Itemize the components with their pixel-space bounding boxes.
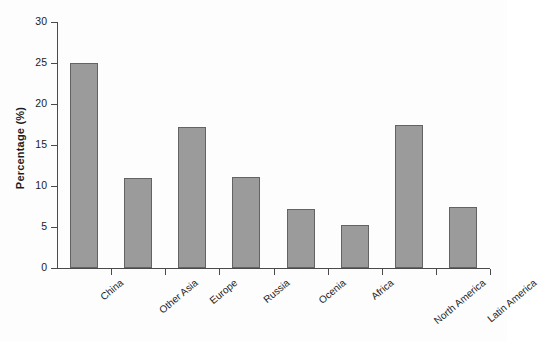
y-axis-title: Percentage (%) xyxy=(14,78,30,218)
x-axis-label: Latin America xyxy=(485,277,538,324)
y-tick: 10 xyxy=(51,186,57,187)
x-axis-label: Other Asia xyxy=(157,277,200,315)
x-tick xyxy=(490,269,491,275)
x-tick xyxy=(274,269,275,275)
x-axis-label-text: Russia xyxy=(262,277,292,305)
x-axis-label-text: Europe xyxy=(208,277,240,306)
bar xyxy=(70,63,98,268)
x-tick xyxy=(219,269,220,275)
x-axis-label: Ocenia xyxy=(316,277,347,306)
y-tick-label: 20 xyxy=(35,97,47,109)
x-axis-label: China xyxy=(98,277,125,302)
x-axis-label: Africa xyxy=(369,277,396,302)
x-axis-label-text: China xyxy=(98,277,125,302)
x-axis-label-text: Latin America xyxy=(485,277,538,324)
y-tick: 20 xyxy=(51,104,57,105)
y-tick-label: 30 xyxy=(35,15,47,27)
y-tick-label: 15 xyxy=(35,138,47,150)
bar xyxy=(287,209,315,268)
y-tick-label: 10 xyxy=(35,179,47,191)
y-tick-label: 5 xyxy=(41,220,47,232)
plot-area: 051015202530 ChinaOther AsiaEuropeRussia… xyxy=(57,22,490,268)
bar xyxy=(341,225,369,268)
y-axis-line xyxy=(57,22,58,269)
x-axis-label: Europe xyxy=(208,277,240,306)
y-tick: 30 xyxy=(51,22,57,23)
x-axis-label: Russia xyxy=(262,277,292,305)
x-tick xyxy=(165,269,166,275)
x-axis-label-text: Ocenia xyxy=(316,277,347,306)
bar xyxy=(124,178,152,268)
bar xyxy=(395,125,423,269)
y-tick: 0 xyxy=(51,268,57,269)
y-tick-label: 25 xyxy=(35,56,47,68)
bar xyxy=(449,207,477,268)
bar xyxy=(178,127,206,268)
x-axis-label-text: Other Asia xyxy=(157,277,200,315)
x-tick xyxy=(328,269,329,275)
x-axis-label: North America xyxy=(432,277,488,326)
x-axis-label-text: North America xyxy=(432,277,488,326)
y-tick-label: 0 xyxy=(41,261,47,273)
x-axis-label-text: Africa xyxy=(369,277,396,302)
y-tick: 5 xyxy=(51,227,57,228)
y-tick: 15 xyxy=(51,145,57,146)
bar xyxy=(232,177,260,268)
x-tick xyxy=(111,269,112,275)
x-tick xyxy=(382,269,383,275)
x-tick xyxy=(436,269,437,275)
y-tick: 25 xyxy=(51,63,57,64)
